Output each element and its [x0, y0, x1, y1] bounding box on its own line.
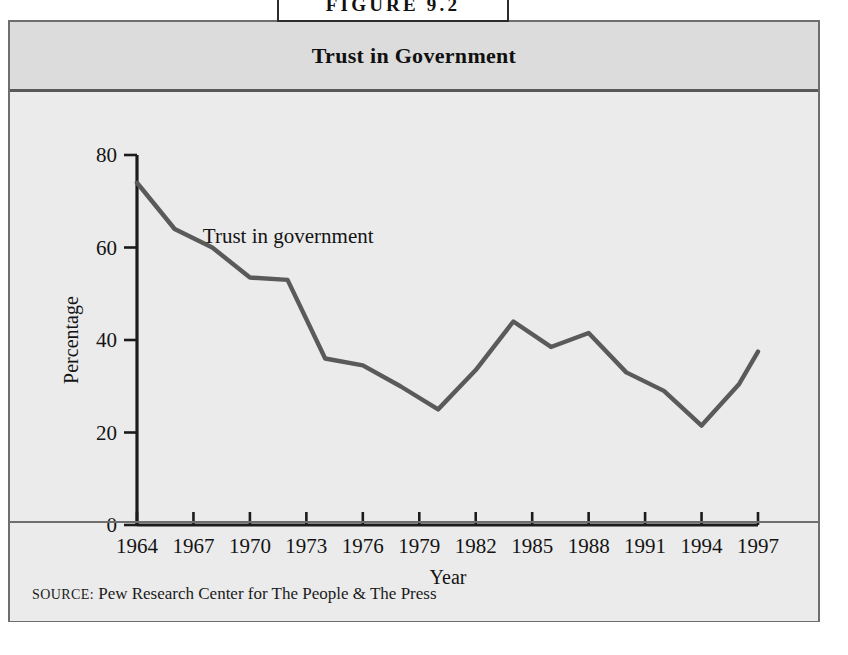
- x-tick-label: 1967: [172, 534, 214, 558]
- figure-panel: Trust in Government 020406080 1964196719…: [8, 20, 820, 622]
- figure-title: Trust in Government: [312, 43, 517, 69]
- y-tick-label: 40: [96, 328, 117, 352]
- y-axis-ticks: [124, 155, 137, 525]
- x-axis-tick-labels: 1964196719701973197619791982198519881991…: [116, 534, 779, 558]
- chart-annotations: Trust in government: [203, 224, 374, 248]
- y-axis-tick-labels: 020406080: [96, 143, 117, 537]
- y-tick-label: 80: [96, 143, 117, 167]
- y-tick-label: 60: [96, 236, 117, 260]
- x-tick-label: 1997: [737, 534, 779, 558]
- x-tick-label: 1994: [681, 534, 724, 558]
- line-chart: 020406080 196419671970197319761979198219…: [10, 92, 818, 621]
- x-tick-label: 1976: [342, 534, 384, 558]
- series-annotation-label: Trust in government: [203, 224, 374, 248]
- source-citation: Pew Research Center for The People & The…: [98, 584, 436, 603]
- figure-number-tab: FIGURE 9.2: [277, 0, 509, 22]
- y-tick-label: 20: [96, 421, 117, 445]
- source-label: SOURCE:: [32, 587, 94, 602]
- source-divider: [10, 521, 818, 523]
- x-tick-label: 1964: [116, 534, 159, 558]
- x-tick-label: 1979: [398, 534, 440, 558]
- x-tick-label: 1991: [624, 534, 666, 558]
- figure-container: FIGURE 9.2 Trust in Government 020406080…: [0, 0, 848, 655]
- x-tick-label: 1988: [568, 534, 610, 558]
- source-note: SOURCE: Pew Research Center for The Peop…: [32, 584, 437, 604]
- figure-number-label: FIGURE 9.2: [326, 0, 460, 20]
- x-tick-label: 1985: [511, 534, 553, 558]
- x-tick-label: 1973: [285, 534, 327, 558]
- x-tick-label: 1970: [229, 534, 271, 558]
- x-tick-label: 1982: [455, 534, 497, 558]
- chart-body: 020406080 196419671970197319761979198219…: [10, 92, 818, 621]
- series-line-trust-in-government: [137, 183, 758, 426]
- x-axis-ticks: [137, 512, 758, 525]
- y-axis-title: Percentage: [60, 296, 83, 384]
- figure-title-band: Trust in Government: [10, 22, 818, 92]
